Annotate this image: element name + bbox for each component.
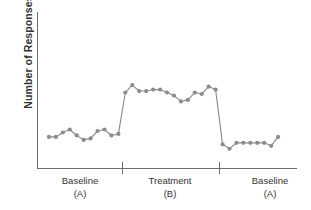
- data-point: [234, 141, 238, 145]
- data-point: [179, 99, 183, 103]
- data-point: [95, 129, 99, 133]
- data-point: [255, 141, 259, 145]
- data-point: [130, 83, 134, 87]
- data-point: [68, 127, 72, 131]
- data-point: [137, 89, 141, 93]
- phase-name: Baseline: [41, 174, 119, 187]
- data-point: [89, 136, 93, 140]
- phase-code: (A): [231, 187, 309, 200]
- data-point: [47, 135, 51, 139]
- data-point: [158, 87, 162, 91]
- data-point: [269, 144, 273, 148]
- data-point: [116, 132, 120, 136]
- data-point: [262, 141, 266, 145]
- phase-code: (B): [131, 187, 209, 200]
- data-point: [186, 98, 190, 102]
- data-point: [227, 147, 231, 151]
- data-point: [144, 89, 148, 93]
- data-point: [276, 135, 280, 139]
- phase-name: Baseline: [231, 174, 309, 187]
- phase-label-baseline-a1: Baseline (A): [41, 174, 119, 200]
- data-point: [248, 141, 252, 145]
- data-point: [172, 93, 176, 97]
- phase-label-treatment-b: Treatment (B): [131, 174, 209, 200]
- data-point: [61, 130, 65, 134]
- response-data-markers: [47, 83, 280, 151]
- data-point: [109, 133, 113, 137]
- data-point: [75, 133, 79, 137]
- phase-label-baseline-a2: Baseline (A): [231, 174, 309, 200]
- data-point: [165, 90, 169, 94]
- data-point: [123, 90, 127, 94]
- data-point: [193, 90, 197, 94]
- data-point: [151, 87, 155, 91]
- data-point: [200, 92, 204, 96]
- chart-figure: Number of Responses Baseline (A) Treatme…: [0, 0, 311, 210]
- data-point: [207, 85, 211, 89]
- data-point: [214, 87, 218, 91]
- data-point: [241, 141, 245, 145]
- data-point: [220, 142, 224, 146]
- data-point: [82, 138, 86, 142]
- phase-name: Treatment: [131, 174, 209, 187]
- data-point: [102, 127, 106, 131]
- data-point: [54, 135, 58, 139]
- phase-code: (A): [41, 187, 119, 200]
